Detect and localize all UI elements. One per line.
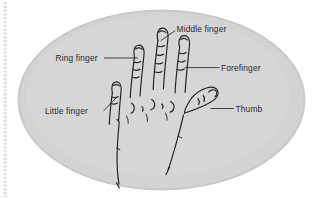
label-little-finger: Little finger bbox=[45, 106, 88, 116]
label-thumb: Thumb bbox=[236, 104, 263, 114]
oval-backdrop bbox=[18, 10, 306, 191]
label-middle-finger: Middle finger bbox=[177, 24, 227, 34]
label-forefinger: Forefinger bbox=[221, 63, 261, 73]
label-ring-finger: Ring finger bbox=[56, 53, 98, 63]
hand-anatomy-figure: Middle finger Ring finger Forefinger Lit… bbox=[0, 0, 318, 199]
